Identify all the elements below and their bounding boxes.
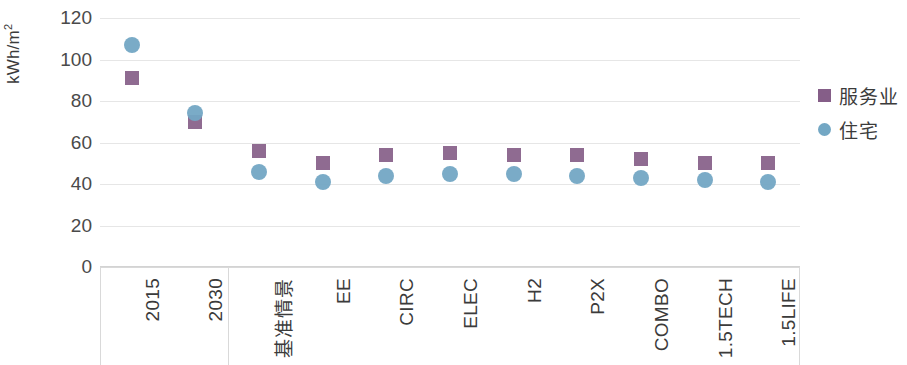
- x-axis-label: P2X: [587, 278, 609, 365]
- x-axis-label: 1.5TECH: [715, 278, 737, 365]
- x-axis-label: CIRC: [396, 278, 418, 365]
- gridline: [100, 18, 800, 19]
- data-point-square: [570, 148, 584, 162]
- y-axis-tick-labels: 120100806040200: [30, 0, 92, 365]
- data-point-square: [316, 156, 330, 170]
- legend-label-residential: 住宅: [839, 116, 879, 143]
- x-axis-label: ELEC: [460, 278, 482, 365]
- data-point-circle: [633, 170, 649, 186]
- data-point-circle: [124, 37, 140, 53]
- y-axis-title: kWh/m2: [2, 0, 26, 84]
- legend-item-services[interactable]: 服务业: [818, 78, 907, 112]
- data-point-square: [125, 71, 139, 85]
- y-axis-title-superscript: 2: [2, 24, 14, 30]
- data-point-square: [443, 146, 457, 160]
- data-point-circle: [187, 105, 203, 121]
- y-axis-title-text: kWh/m: [4, 30, 23, 84]
- chart-container: kWh/m2 120100806040200 20152030基准情景EECIR…: [0, 0, 907, 365]
- y-axis-tick-label: 100: [30, 49, 92, 71]
- y-axis-tick-label: 0: [30, 256, 92, 278]
- data-point-square: [379, 148, 393, 162]
- gridline: [100, 226, 800, 227]
- y-axis-tick-label: 80: [30, 90, 92, 112]
- x-axis-label-band: 20152030基准情景EECIRCELECH2P2XCOMBO1.5TECH1…: [100, 267, 800, 365]
- gridline: [100, 60, 800, 61]
- legend-circle-icon: [818, 123, 831, 136]
- data-point-circle: [697, 172, 713, 188]
- legend-label-services: 服务业: [839, 82, 899, 109]
- data-point-square: [698, 156, 712, 170]
- x-axis-label: 基准情景: [269, 278, 296, 365]
- category-group-divider: [228, 268, 229, 365]
- data-point-circle: [506, 166, 522, 182]
- data-point-square: [761, 156, 775, 170]
- data-point-circle: [569, 168, 585, 184]
- data-point-square: [634, 152, 648, 166]
- x-axis-label: 2030: [205, 278, 227, 365]
- data-point-circle: [378, 168, 394, 184]
- y-axis-tick-label: 20: [30, 215, 92, 237]
- gridline: [100, 184, 800, 185]
- x-axis-label: H2: [524, 278, 546, 365]
- gridline: [100, 143, 800, 144]
- data-point-circle: [315, 174, 331, 190]
- y-axis-tick-label: 120: [30, 7, 92, 29]
- x-axis-label: 1.5LIFE: [778, 278, 800, 365]
- gridline: [100, 101, 800, 102]
- legend-item-residential[interactable]: 住宅: [818, 112, 907, 146]
- y-axis-tick-label: 40: [30, 173, 92, 195]
- data-point-square: [252, 144, 266, 158]
- plot-area: [100, 18, 800, 267]
- data-point-circle: [251, 164, 267, 180]
- x-axis-label: COMBO: [651, 278, 673, 365]
- x-axis-label: EE: [333, 278, 355, 365]
- legend-square-icon: [818, 89, 831, 102]
- data-point-circle: [442, 166, 458, 182]
- legend: 服务业 住宅: [818, 78, 907, 146]
- data-point-circle: [760, 174, 776, 190]
- x-axis-label: 2015: [142, 278, 164, 365]
- data-point-square: [507, 148, 521, 162]
- y-axis-tick-label: 60: [30, 132, 92, 154]
